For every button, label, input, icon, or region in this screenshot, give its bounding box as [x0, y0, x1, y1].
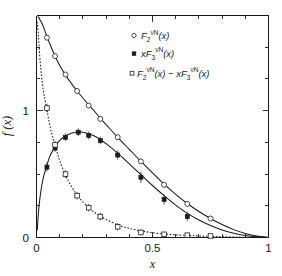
data-point-filled-square [64, 135, 68, 139]
data-point-open-circle [185, 201, 190, 206]
data-point-open-circle [98, 116, 103, 121]
xtick-label-1: 1 [265, 242, 271, 254]
legend-diff-xf3-arg: (x) [198, 68, 209, 79]
data-point-filled-square [45, 165, 49, 169]
data-point-filled-square [98, 138, 102, 142]
legend-label-diff: F2νN(x) − xF3νN(x) [137, 66, 210, 81]
legend-marker-xf3 [132, 52, 136, 56]
data-point-open-circle [138, 159, 143, 164]
data-point-open-square [208, 234, 213, 239]
data-point-open-circle [86, 103, 91, 108]
legend-label-f2: F2νN(x) [141, 29, 169, 44]
ytick-label-1: 1 [23, 105, 29, 117]
data-point-open-square [162, 232, 167, 237]
data-point-open-square [75, 193, 80, 198]
data-point-open-square [115, 224, 120, 229]
data-point-filled-square [139, 175, 143, 179]
x-axis-title: x [149, 257, 156, 271]
legend-f2-argument: (x) [158, 30, 169, 41]
data-point-open-circle [44, 35, 49, 40]
data-point-filled-square [76, 130, 80, 134]
data-point-filled-square [162, 197, 166, 201]
data-point-open-circle [162, 182, 167, 187]
fit-curves [37, 17, 268, 238]
data-point-open-square [86, 205, 91, 210]
data-point-open-square [139, 230, 144, 235]
legend-diff-xf3-sub: 3 [187, 74, 191, 81]
y-axis-title: f (x) [0, 116, 14, 136]
data-point-open-circle [53, 54, 58, 59]
curve-0 [38, 17, 269, 238]
plot-frame [37, 16, 269, 238]
curve-1 [37, 132, 268, 238]
xtick-label-0.5: 0.5 [145, 242, 161, 254]
legend-diff-minus: − [165, 68, 176, 79]
data-point-open-square [98, 214, 103, 219]
data-point-open-circle [63, 72, 68, 77]
data-point-open-square [63, 172, 68, 177]
data-point-open-circle [75, 88, 80, 93]
data-point-open-circle [115, 135, 120, 140]
legend-marker-f2 [132, 33, 136, 37]
data-point-open-square [185, 233, 190, 238]
data-point-filled-square [185, 215, 189, 219]
data-markers [44, 35, 213, 238]
data-point-open-square [45, 106, 50, 111]
legend-f2-subscript: 2 [147, 36, 151, 43]
xtick-label-0: 0 [33, 242, 39, 254]
data-point-open-circle [208, 216, 213, 221]
data-point-open-square [53, 143, 58, 148]
legend-diff-f2-arg: (x) [154, 68, 165, 79]
legend-xf3-argument: (x) [163, 48, 174, 59]
data-point-filled-square [87, 133, 91, 137]
legend-diff-f2-sub: 2 [143, 74, 147, 81]
structure-function-plot: 0 0.5 1 0 1 x f (x) F2νN(x) xF3νN(x) F2ν… [0, 0, 282, 276]
data-point-filled-square [116, 153, 120, 157]
axis-ticks [37, 16, 269, 238]
legend-marker-diff [130, 71, 134, 75]
legend-xf3-subscript: 3 [152, 54, 156, 61]
legend: F2νN(x) xF3νN(x) F2νN(x) − xF3νN(x) [130, 29, 209, 81]
legend-label-xf3: xF3νN(x) [140, 46, 174, 61]
ytick-label-0: 0 [23, 232, 29, 244]
chart-figure: 0 0.5 1 0 1 x f (x) F2νN(x) xF3νN(x) F2ν… [0, 0, 282, 276]
